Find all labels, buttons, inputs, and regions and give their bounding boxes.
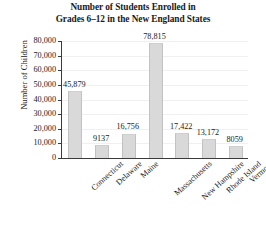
bar — [68, 91, 82, 158]
y-axis-tick-label: 50,000 — [33, 81, 56, 89]
y-axis-tick — [58, 85, 61, 86]
chart-title: Number of Students Enrolled in Grades 6–… — [0, 2, 266, 25]
bar-chart: Number of Students Enrolled in Grades 6–… — [0, 0, 266, 229]
y-axis-tick — [58, 41, 61, 42]
y-axis-tick — [58, 143, 61, 144]
bar — [229, 146, 243, 158]
y-axis-tick-label: 40,000 — [33, 95, 56, 103]
y-axis-tick-label: 10,000 — [33, 139, 56, 147]
bar-value-label: 17,422 — [170, 123, 193, 131]
y-axis-tick — [58, 100, 61, 101]
y-axis-tick-label: 70,000 — [33, 52, 56, 60]
y-axis-tick — [58, 56, 61, 57]
chart-title-line-1: Number of Students Enrolled in — [0, 2, 266, 14]
y-axis-tick-label: 0 — [52, 154, 56, 162]
chart-title-line-2: Grades 6–12 in the New England States — [0, 14, 266, 26]
y-axis-tick-label: 30,000 — [33, 110, 56, 118]
y-axis-title: Number of Children — [19, 27, 29, 123]
bar — [122, 134, 136, 159]
bar — [95, 145, 109, 158]
bar — [149, 43, 163, 158]
bar-value-label: 45,879 — [63, 81, 86, 89]
y-axis-tick-label: 60,000 — [33, 66, 56, 74]
y-axis-tick-label: 20,000 — [33, 125, 56, 133]
y-axis-tick — [58, 70, 61, 71]
bar-value-label: 8059 — [226, 136, 242, 144]
x-axis-label: Maine — [139, 160, 160, 180]
y-axis-tick — [58, 158, 61, 159]
bar-value-label: 13,172 — [197, 129, 220, 137]
bar — [202, 139, 216, 158]
y-axis-tick — [58, 114, 61, 115]
bar — [175, 133, 189, 158]
y-axis-tick-label: 80,000 — [33, 37, 56, 45]
plot-area: 010,00020,00030,00040,00050,00060,00070,… — [61, 41, 248, 158]
bar-value-label: 9137 — [93, 135, 109, 143]
bar-value-label: 16,756 — [117, 123, 140, 131]
bar-value-label: 78,815 — [143, 33, 166, 41]
y-axis-tick — [58, 129, 61, 130]
